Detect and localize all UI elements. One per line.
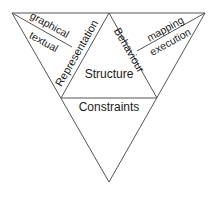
constraints-label: Constraints (79, 100, 140, 114)
structure-label: Structure (85, 67, 134, 81)
triangle-diagram: Structure Constraints Representation Beh… (0, 0, 213, 198)
